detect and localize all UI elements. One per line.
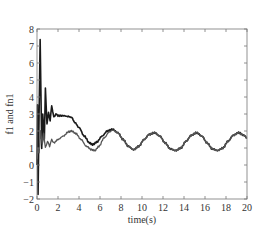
y-tick-label: −1 [23,177,34,188]
x-axis-label: time(s) [128,214,156,226]
y-tick-label: 1 [29,143,34,154]
x-tick-label: 2 [56,202,61,213]
y-tick-label: 5 [29,75,34,86]
x-axis-ticks: 02468101214161820 [35,29,253,213]
x-tick-label: 0 [35,202,40,213]
x-tick-label: 6 [98,202,103,213]
plot-frame [37,29,247,199]
y-axis-label: f1 and fn1 [4,93,15,134]
x-tick-label: 8 [119,202,124,213]
y-tick-label: −2 [23,194,34,205]
y-tick-label: 8 [29,24,34,35]
series-line-fn1 [37,130,247,159]
series-line-f1 [37,40,247,195]
x-tick-label: 16 [200,202,210,213]
x-tick-label: 10 [137,202,147,213]
y-tick-label: 3 [29,109,34,120]
x-tick-label: 4 [77,202,82,213]
x-tick-label: 12 [158,202,168,213]
y-tick-label: 4 [29,92,34,103]
x-tick-label: 20 [242,202,252,213]
y-tick-label: 7 [29,41,34,52]
y-tick-label: 6 [29,58,34,69]
line-chart: 02468101214161820 −2−1012345678 time(s) … [0,0,261,234]
y-tick-label: 2 [29,126,34,137]
x-tick-label: 18 [221,202,231,213]
y-tick-label: 0 [29,160,34,171]
x-tick-label: 14 [179,202,189,213]
plot-lines [37,40,247,195]
